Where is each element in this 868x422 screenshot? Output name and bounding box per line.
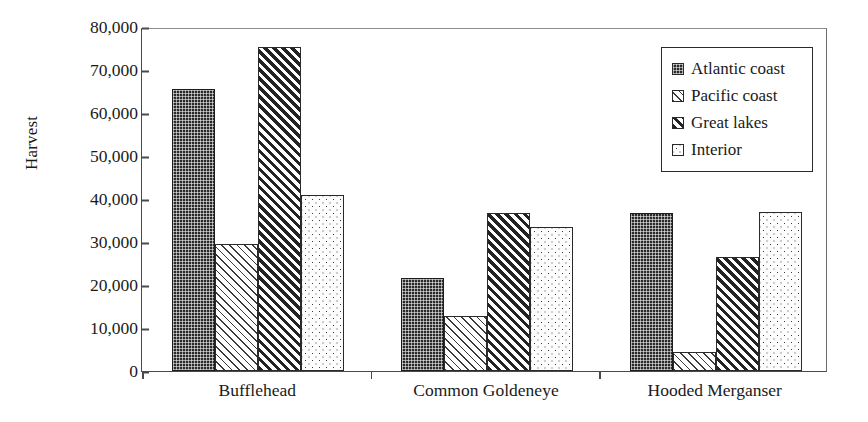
x-axis-tick xyxy=(142,371,144,379)
legend-item[interactable]: Interior xyxy=(672,136,804,163)
y-axis-tick-label: 30,000 xyxy=(90,232,138,253)
legend-swatch-icon xyxy=(672,90,684,102)
bar xyxy=(401,278,444,371)
bar xyxy=(444,316,487,371)
bar xyxy=(258,47,301,371)
x-axis-tick xyxy=(599,371,601,379)
y-axis-tick-mark xyxy=(142,71,149,73)
legend-item-label: Great lakes xyxy=(691,114,768,131)
y-axis-tick-mark xyxy=(142,157,149,159)
legend-item-label: Interior xyxy=(691,141,742,158)
y-axis-tick-label: 80,000 xyxy=(90,17,138,38)
legend-item-label: Pacific coast xyxy=(691,87,777,104)
legend-swatch-icon xyxy=(672,144,684,156)
bar xyxy=(487,213,530,371)
y-axis-tick-label: 40,000 xyxy=(90,189,138,210)
y-axis-tick-label: 20,000 xyxy=(90,275,138,296)
bar xyxy=(215,244,258,371)
legend-item-label: Atlantic coast xyxy=(691,60,785,77)
y-axis-tick-label: 50,000 xyxy=(90,146,138,167)
bar xyxy=(172,89,215,371)
y-axis-tick-mark xyxy=(142,243,149,245)
y-axis-label: Harvest xyxy=(22,50,42,170)
y-axis-tick-mark xyxy=(142,28,149,30)
y-axis-tick-mark xyxy=(142,114,149,116)
x-axis-category-label: Bufflehead xyxy=(219,380,296,401)
bar xyxy=(301,195,344,371)
y-axis-tick-label: 10,000 xyxy=(90,318,138,339)
bar-chart: Harvest 010,00020,00030,00040,00050,0006… xyxy=(0,0,868,422)
y-axis-tick-mark xyxy=(142,200,149,202)
legend: Atlantic coastPacific coastGreat lakesIn… xyxy=(661,47,813,172)
legend-item[interactable]: Atlantic coast xyxy=(672,55,804,82)
y-axis-tick-label: 0 xyxy=(129,361,138,382)
y-axis-tick-label: 70,000 xyxy=(90,60,138,81)
bar xyxy=(716,257,759,371)
y-axis-tick-label: 60,000 xyxy=(90,103,138,124)
bar xyxy=(630,213,673,371)
bar xyxy=(759,212,802,371)
legend-swatch-icon xyxy=(672,63,684,75)
y-axis-tick-mark xyxy=(142,286,149,288)
legend-item[interactable]: Pacific coast xyxy=(672,82,804,109)
y-axis-tick-mark xyxy=(142,329,149,331)
legend-item[interactable]: Great lakes xyxy=(672,109,804,136)
bar xyxy=(530,227,573,371)
bar xyxy=(673,352,716,371)
x-axis-tick xyxy=(371,371,373,379)
legend-swatch-icon xyxy=(672,117,684,129)
x-axis-category-label: Common Goldeneye xyxy=(413,380,558,401)
x-axis-category-label: Hooded Merganser xyxy=(648,380,782,401)
